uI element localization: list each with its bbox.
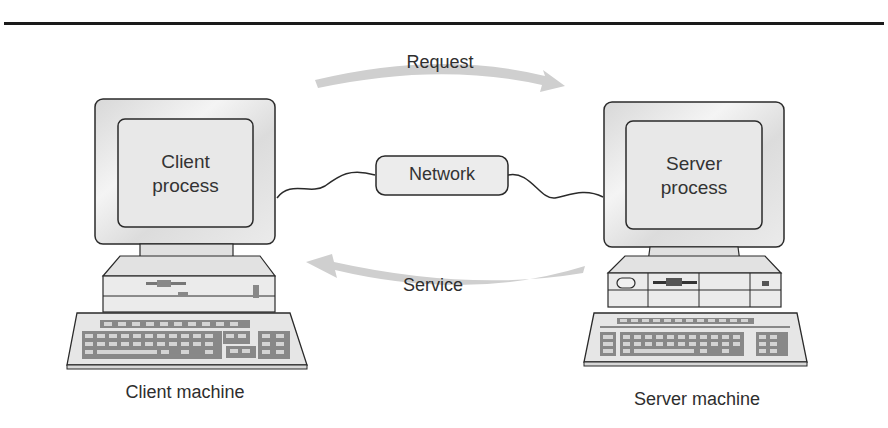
client-network-wire [277, 172, 375, 198]
server-machine-caption: Server machine [612, 389, 782, 410]
client-system-unit [103, 256, 275, 312]
client-machine-caption: Client machine [105, 382, 265, 403]
client-process-line2: process [118, 174, 253, 198]
network-label: Network [376, 164, 508, 185]
server-process-line2: process [626, 176, 762, 200]
server-keyboard [584, 313, 807, 366]
server-process-label: Server process [626, 152, 762, 200]
server-system-unit [608, 256, 781, 307]
service-label: Service [383, 275, 483, 296]
server-process-line1: Server [626, 152, 762, 176]
client-process-line1: Client [118, 150, 253, 174]
client-keyboard [67, 313, 307, 369]
client-process-label: Client process [118, 150, 253, 198]
request-label: Request [395, 52, 485, 73]
server-network-wire [508, 174, 603, 198]
